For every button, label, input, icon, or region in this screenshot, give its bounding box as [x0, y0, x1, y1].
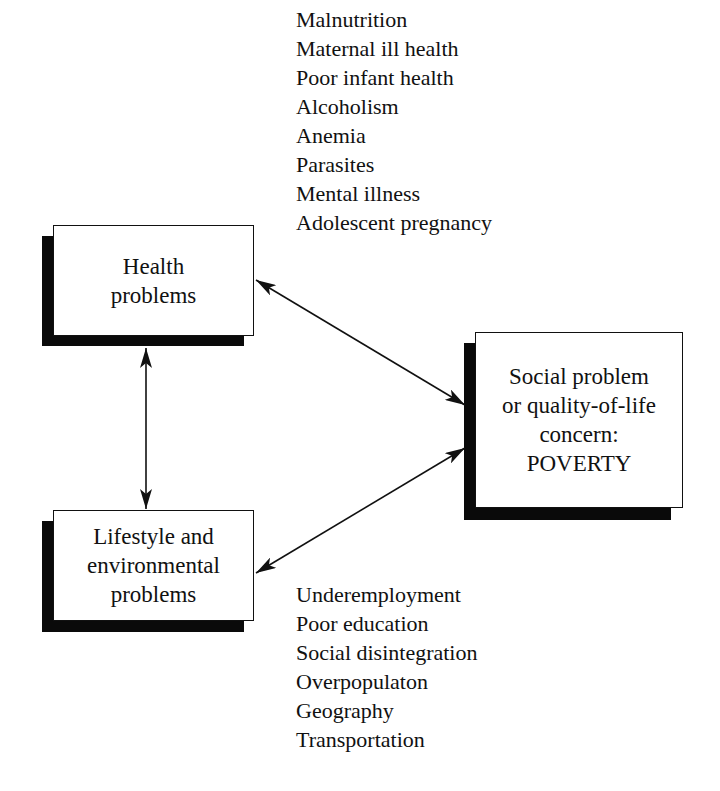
health-factor: Adolescent pregnancy	[296, 208, 492, 237]
health-factor: Anemia	[296, 121, 492, 150]
health-box-line: Health	[123, 252, 184, 281]
health-factor: Maternal ill health	[296, 34, 492, 63]
lifestyle-factors-list: Underemployment Poor education Social di…	[296, 580, 477, 754]
lifestyle-factor: Geography	[296, 696, 477, 725]
poverty-box-line: POVERTY	[527, 449, 632, 478]
lifestyle-problems-box: Lifestyle and environmental problems	[53, 510, 254, 621]
health-factor: Mental illness	[296, 179, 492, 208]
lifestyle-factor: Social disintegration	[296, 638, 477, 667]
health-factor: Malnutrition	[296, 5, 492, 34]
health-factor: Poor infant health	[296, 63, 492, 92]
lifestyle-factor: Transportation	[296, 725, 477, 754]
lifestyle-box-line: environmental	[87, 551, 220, 580]
arrow-health-poverty	[256, 280, 465, 405]
lifestyle-box-line: Lifestyle and	[93, 522, 214, 551]
health-problems-box: Health problems	[53, 225, 254, 336]
lifestyle-factor: Poor education	[296, 609, 477, 638]
poverty-box-line: Social problem	[509, 362, 649, 391]
health-factors-list: Malnutrition Maternal ill health Poor in…	[296, 5, 492, 237]
arrow-lifestyle-poverty	[256, 448, 465, 573]
lifestyle-factor: Underemployment	[296, 580, 477, 609]
health-box-line: problems	[111, 281, 197, 310]
lifestyle-factor: Overpopulaton	[296, 667, 477, 696]
poverty-concern-box: Social problem or quality-of-life concer…	[475, 332, 683, 508]
poverty-box-line: concern:	[539, 420, 618, 449]
poverty-diagram: Malnutrition Maternal ill health Poor in…	[0, 0, 720, 791]
lifestyle-box-line: problems	[111, 580, 197, 609]
poverty-box-line: or quality-of-life	[502, 391, 656, 420]
health-factor: Parasites	[296, 150, 492, 179]
health-factor: Alcoholism	[296, 92, 492, 121]
